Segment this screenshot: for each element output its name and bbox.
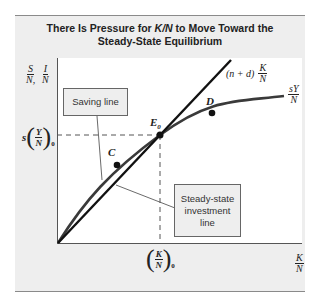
point-d: [209, 110, 216, 117]
point-c: [114, 162, 121, 169]
saving-line-callout: Saving line: [63, 88, 128, 116]
saving-leader-line: [97, 116, 102, 180]
x-axis-label: K N: [295, 253, 304, 274]
steady-state-investment-callout: Steady-state investment line: [174, 184, 241, 237]
point-d-label: D: [206, 95, 214, 107]
point-e0-label: E0: [150, 116, 161, 131]
x-tick-capital-equilibrium: ( K N ) 0: [146, 246, 175, 272]
y-tick-saving-equilibrium: s ( Y N ) 0: [22, 124, 55, 150]
investment-leader-line: [116, 185, 175, 208]
point-e0: [157, 132, 164, 139]
y-axis-label-i: I N: [42, 64, 49, 85]
point-c-label: C: [108, 146, 115, 158]
saving-curve-label: sY N: [288, 84, 299, 105]
y-axis-label-s: S N,: [26, 64, 35, 85]
investment-line-label: (n + d) K N: [226, 63, 267, 84]
saving-curve: [58, 96, 284, 243]
